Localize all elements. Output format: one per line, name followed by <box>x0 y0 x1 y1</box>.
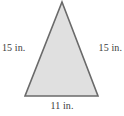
geometry-figure-container: 15 in. 15 in. 11 in. <box>0 0 124 116</box>
isosceles-triangle-polygon <box>25 2 98 96</box>
triangle-shape <box>0 0 124 116</box>
left-side-length-label: 15 in. <box>2 42 25 53</box>
base-length-label: 11 in. <box>0 100 124 111</box>
right-side-length-label: 15 in. <box>99 42 122 53</box>
